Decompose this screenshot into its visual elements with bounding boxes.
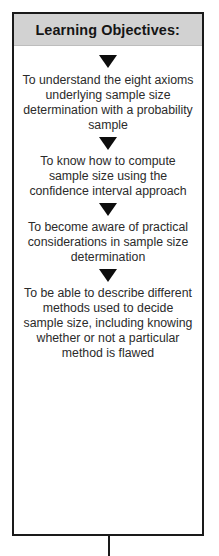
triangle-down-icon xyxy=(99,269,117,282)
flow-connector-4 xyxy=(20,265,196,286)
triangle-down-icon xyxy=(99,55,117,68)
objective-item-1: To understand the eight axioms underlyin… xyxy=(20,73,196,133)
learning-objectives-panel: Learning Objectives: To understand the e… xyxy=(12,12,204,536)
learning-objectives-diagram: Learning Objectives: To understand the e… xyxy=(0,0,219,556)
triangle-down-icon xyxy=(99,203,117,216)
objectives-flow: To understand the eight axioms underlyin… xyxy=(14,46,202,534)
objective-item-2: To know how to compute sample size using… xyxy=(20,154,196,199)
flow-outgoing-connector xyxy=(108,536,110,556)
objective-item-4: To be able to describe different methods… xyxy=(20,286,196,361)
page-title: Learning Objectives: xyxy=(36,21,180,39)
triangle-down-icon xyxy=(99,137,117,150)
flow-connector-1 xyxy=(20,46,196,73)
flow-connector-3 xyxy=(20,199,196,220)
objective-item-3: To become aware of practical considerati… xyxy=(20,220,196,265)
panel-header: Learning Objectives: xyxy=(14,14,202,46)
flow-connector-2 xyxy=(20,133,196,154)
